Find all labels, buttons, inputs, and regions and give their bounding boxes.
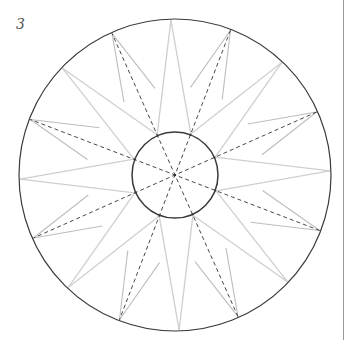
star-edge-line <box>157 20 171 135</box>
star-edge-line <box>171 20 191 134</box>
star-edge-line <box>195 262 238 317</box>
compass-star-diagram <box>0 0 347 349</box>
star-edge-line <box>216 171 330 191</box>
star-edge-line <box>179 215 193 330</box>
star-edge-line <box>68 216 159 287</box>
star-edge-line <box>226 248 238 317</box>
star-edge-line <box>159 216 179 330</box>
star-edge-line <box>112 33 155 88</box>
star-edge-line <box>248 112 317 124</box>
star-edge-line <box>112 33 124 102</box>
star-edge-line <box>20 159 134 179</box>
star-edge-line <box>20 179 135 193</box>
star-edge-line <box>33 195 88 238</box>
center-point <box>174 174 176 176</box>
star-edge-line <box>33 226 102 238</box>
star-edge-line <box>262 112 317 155</box>
star-edge-line <box>215 157 330 171</box>
star-edge-line <box>63 68 134 159</box>
